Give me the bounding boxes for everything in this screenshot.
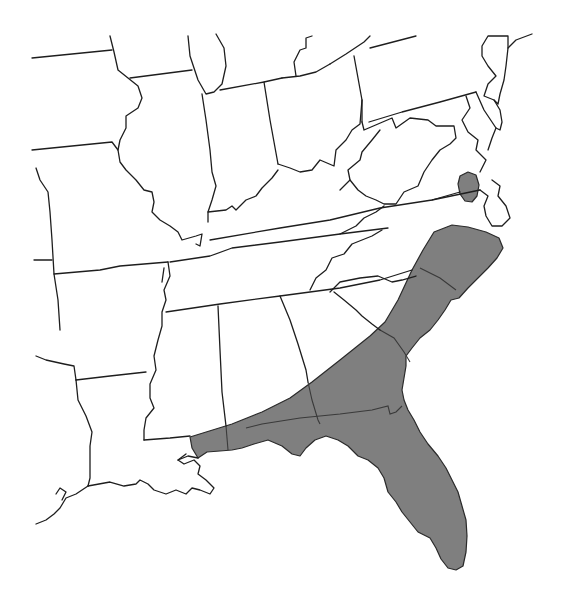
range-map — [0, 0, 562, 609]
map-background — [0, 0, 562, 609]
map-canvas — [0, 0, 562, 609]
